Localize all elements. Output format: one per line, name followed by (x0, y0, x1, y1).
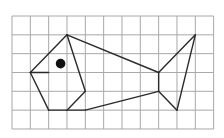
fish-segment (67, 91, 85, 110)
fish-grid-diagram (0, 0, 224, 138)
fish-eye (56, 59, 66, 69)
fish-segment (67, 35, 85, 91)
fish-segment (159, 91, 177, 110)
